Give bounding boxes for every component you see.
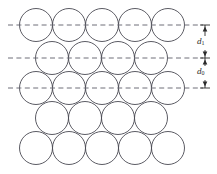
sphere (152, 132, 185, 165)
sphere-packing-diagram (0, 0, 217, 174)
sphere (36, 102, 69, 135)
sphere (20, 132, 53, 165)
sphere (86, 132, 119, 165)
d1-arrowhead-up (203, 27, 208, 32)
d1-arrowhead-down (203, 52, 208, 57)
dimension-label-d0: d0 (197, 67, 205, 76)
sphere (102, 102, 135, 135)
sphere (69, 102, 102, 135)
figure-container: d1 d0 (0, 0, 217, 174)
plane-trace-group (8, 25, 203, 88)
sphere (119, 132, 152, 165)
d0-arrowhead-up (203, 60, 208, 65)
d0-arrowhead-down (203, 82, 208, 87)
circle-row-5 (20, 132, 185, 165)
circle-row-4 (36, 102, 168, 135)
dimension-label-d1: d1 (197, 37, 205, 46)
dimension-label-d1-subscript: 1 (202, 40, 205, 46)
sphere (53, 132, 86, 165)
sphere (135, 102, 168, 135)
figure-caption (0, 164, 217, 174)
dimension-label-d0-subscript: 0 (202, 70, 205, 76)
